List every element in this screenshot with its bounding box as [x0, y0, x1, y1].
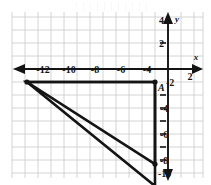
vertex-point-left — [24, 79, 29, 84]
axis-lines — [13, 12, 203, 181]
y-tick-label-2: 2 — [159, 38, 164, 49]
y-tick-label--10: -10 — [158, 168, 171, 179]
grid-lines — [12, 12, 203, 178]
coordinate-plane-figure: -12 -10 -8 -6 -4 2 4 2 -2 -4 -6 -8 -10 x… — [0, 0, 211, 185]
x-axis-arrow-left — [13, 64, 25, 74]
triangle-outline — [27, 82, 155, 185]
x-axis-label: x — [193, 52, 199, 62]
vertex-label-a: A — [157, 82, 165, 93]
tick-marks — [160, 43, 166, 160]
y-tick-label-4: 4 — [159, 15, 164, 26]
y-tick-label--2: -2 — [166, 77, 174, 88]
vertex-point-bottom — [152, 161, 157, 166]
x-tick-label--6: -6 — [117, 64, 125, 75]
y-tick-label--6: -6 — [160, 129, 168, 140]
triangle-outline-visible — [27, 82, 155, 164]
graph-canvas: -12 -10 -8 -6 -4 2 4 2 -2 -4 -6 -8 -10 x… — [0, 0, 211, 185]
x-tick-label--10: -10 — [62, 64, 75, 75]
y-axis-label: y — [174, 14, 180, 24]
x-axis-arrow-right — [192, 64, 203, 74]
x-tick-label--12: -12 — [36, 64, 49, 75]
vertex-point-a — [152, 79, 157, 84]
x-tick-label-2: 2 — [188, 71, 193, 82]
y-tick-label--4: -4 — [160, 103, 168, 114]
x-tick-label--4: -4 — [143, 64, 151, 75]
y-tick-labels: 4 2 -2 -4 -6 -8 -10 — [158, 15, 174, 179]
x-tick-label--8: -8 — [91, 64, 99, 75]
y-tick-label--8: -8 — [160, 155, 168, 166]
y-axis-arrow-top — [163, 12, 173, 24]
